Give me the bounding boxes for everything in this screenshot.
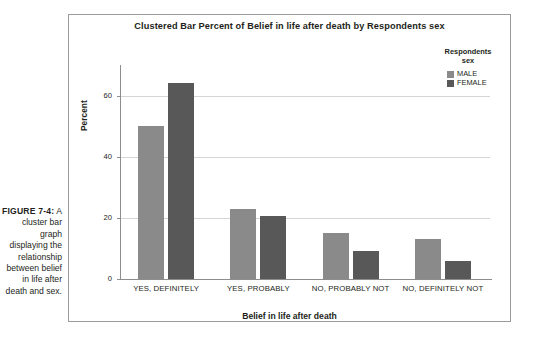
figure-number: FIGURE 7-4:: [2, 206, 54, 216]
x-category-label: YES, PROBABLY: [208, 284, 308, 293]
y-tick-mark: [117, 218, 120, 219]
bar[interactable]: [260, 216, 286, 279]
y-tick-mark: [117, 96, 120, 97]
y-axis-line: [120, 65, 121, 279]
bar[interactable]: [230, 209, 256, 279]
y-tick-mark: [117, 279, 120, 280]
x-axis-title: Belief in life after death: [69, 311, 510, 321]
bar[interactable]: [445, 261, 471, 279]
bar[interactable]: [415, 239, 441, 279]
y-tick-label: 0: [94, 274, 112, 283]
bar[interactable]: [138, 126, 164, 279]
x-category-label: YES, DEFINITELY: [116, 284, 216, 293]
plot-area: Percent 0204060 YES, DEFINITELYYES, PROB…: [69, 15, 510, 321]
chart-container: Clustered Bar Percent of Belief in life …: [68, 14, 511, 322]
y-tick-label: 60: [94, 91, 112, 100]
y-tick-label: 20: [94, 213, 112, 222]
y-axis-title: Percent: [79, 100, 89, 131]
y-tick-mark: [117, 157, 120, 158]
x-category-label: NO, DEFINITELY NOT: [393, 284, 493, 293]
y-tick-label: 40: [94, 152, 112, 161]
bar[interactable]: [353, 251, 379, 279]
bar[interactable]: [168, 83, 194, 279]
bar[interactable]: [323, 233, 349, 279]
x-axis-line: [120, 279, 492, 280]
figure-caption: FIGURE 7-4: A cluster bar graph displayi…: [0, 206, 62, 297]
x-category-label: NO, PROBABLY NOT: [301, 284, 401, 293]
figure-caption-text: A cluster bar graph displaying the relat…: [6, 206, 62, 296]
